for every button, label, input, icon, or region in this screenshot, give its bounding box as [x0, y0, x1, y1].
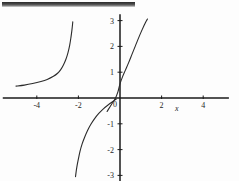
y-tick-label--1: -1	[107, 120, 114, 129]
y-tick-label-2: 2	[110, 42, 114, 51]
scan-artifact-bar	[2, 2, 135, 7]
x-axis-label: x	[174, 104, 179, 113]
graph-canvas: -4-2243210-1-2-3 x	[0, 8, 239, 181]
screenshot-page: -4-2243210-1-2-3 x	[0, 0, 239, 181]
y-tick-label--2: -2	[107, 146, 114, 155]
function-graph: -4-2243210-1-2-3 x	[0, 8, 239, 181]
y-tick-label--3: -3	[107, 171, 114, 180]
x-tick-label-4: 4	[201, 101, 205, 110]
y-tick-label-3: 3	[110, 17, 114, 26]
x-tick-label-2: 2	[160, 101, 164, 110]
curve-branch-left	[16, 22, 73, 86]
x-tick-label--4: -4	[33, 101, 40, 110]
y-tick-label-1: 1	[110, 68, 114, 77]
curve-branch-middle	[75, 99, 116, 177]
x-tick-label--2: -2	[75, 101, 82, 110]
